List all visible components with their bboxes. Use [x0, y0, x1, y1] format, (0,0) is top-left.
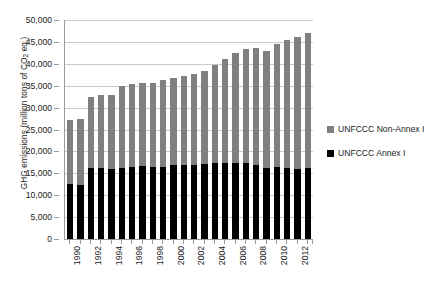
- bar-segment-annex-i: [88, 168, 94, 239]
- bar-group: [129, 84, 135, 239]
- bar-segment-non-annex-i: [88, 97, 94, 168]
- legend-entry: UNFCCC Annex I: [327, 148, 439, 158]
- bar-segment-non-annex-i: [139, 83, 145, 167]
- bar-group: [119, 86, 125, 239]
- bar-group: [88, 97, 94, 239]
- bar-group: [201, 71, 207, 239]
- bar-segment-annex-i: [129, 167, 135, 239]
- y-axis-tick-mark: [54, 239, 59, 240]
- x-axis-tick-mark: [131, 239, 132, 244]
- y-axis-tick-mark: [54, 20, 59, 21]
- x-axis-tick-mark: [100, 239, 101, 244]
- bar-group: [108, 95, 114, 239]
- x-axis-tick-mark: [80, 239, 81, 244]
- y-axis-tick-label: 35,000: [26, 81, 52, 90]
- bar-group: [232, 53, 238, 239]
- y-axis-tick-mark: [54, 151, 59, 152]
- bar-segment-non-annex-i: [170, 78, 176, 166]
- chart-legend: UNFCCC Non-Annex IUNFCCC Annex I: [327, 124, 439, 172]
- bar-segment-non-annex-i: [181, 76, 187, 165]
- bar-segment-annex-i: [222, 163, 228, 239]
- bar-segment-non-annex-i: [77, 119, 83, 185]
- y-axis-tick-mark: [54, 108, 59, 109]
- bar-segment-non-annex-i: [108, 95, 114, 169]
- bar-segment-annex-i: [201, 164, 207, 239]
- bar-group: [263, 51, 269, 239]
- bar-group: [294, 37, 300, 239]
- bar-segment-annex-i: [98, 168, 104, 239]
- bar-group: [160, 80, 166, 239]
- bar-segment-annex-i: [108, 169, 114, 239]
- y-axis-tick-mark: [54, 86, 59, 87]
- x-axis-tick-label: 2000: [177, 246, 186, 265]
- x-axis-tick-mark: [183, 239, 184, 244]
- bar-group: [98, 95, 104, 239]
- bar-segment-annex-i: [274, 167, 280, 239]
- bar-segment-annex-i: [77, 185, 83, 239]
- bar-group: [284, 40, 290, 239]
- bar-segment-annex-i: [181, 165, 187, 239]
- bar-segment-non-annex-i: [191, 74, 197, 165]
- bar-segment-non-annex-i: [160, 80, 166, 166]
- x-axis-tick-mark: [307, 239, 308, 244]
- bar-segment-annex-i: [263, 168, 269, 239]
- bar-segment-non-annex-i: [222, 59, 228, 162]
- y-axis-tick-label: 25,000: [26, 125, 52, 134]
- x-axis-tick-label: 2012: [301, 246, 310, 265]
- legend-label: UNFCCC Annex I: [338, 148, 405, 158]
- bar-group: [222, 59, 228, 239]
- y-axis-tick-label: 45,000: [26, 38, 52, 47]
- x-axis-tick-label: 2002: [197, 246, 206, 265]
- bar-group: [305, 33, 311, 239]
- x-axis-tick-mark: [235, 239, 236, 244]
- x-axis-tick-mark: [312, 239, 313, 244]
- x-axis-tick-label: 1998: [156, 246, 165, 265]
- bar-segment-annex-i: [253, 165, 259, 239]
- y-axis-tick-mark: [54, 195, 59, 196]
- bar-group: [170, 78, 176, 239]
- bar-segment-non-annex-i: [98, 95, 104, 168]
- x-axis-tick-mark: [266, 239, 267, 244]
- x-axis-tick-label: 1996: [135, 246, 144, 265]
- y-axis-tick-mark: [54, 173, 59, 174]
- legend-label: UNFCCC Non-Annex I: [338, 124, 424, 134]
- legend-swatch-non-annex-i: [327, 126, 334, 133]
- x-axis-tick-mark: [69, 239, 70, 244]
- bar-segment-annex-i: [150, 167, 156, 239]
- y-axis-tick-label: 30,000: [26, 103, 52, 112]
- x-axis-tick-mark: [173, 239, 174, 244]
- bar-segment-non-annex-i: [150, 83, 156, 167]
- bar-segment-non-annex-i: [129, 84, 135, 166]
- legend-entry: UNFCCC Non-Annex I: [327, 124, 439, 134]
- bar-segment-annex-i: [243, 163, 249, 239]
- bar-segment-annex-i: [119, 168, 125, 239]
- bar-segment-annex-i: [67, 184, 73, 239]
- x-axis-tick-mark: [193, 239, 194, 244]
- ghg-emissions-stacked-bar-chart: GHG emissions (million tons of CO2 eq.) …: [0, 0, 441, 295]
- x-axis-tick-mark: [152, 239, 153, 244]
- y-axis-tick-labels: 05,00010,00015,00020,00025,00030,00035,0…: [0, 20, 59, 239]
- x-axis-tick-label: 2010: [280, 246, 289, 265]
- bar-group: [191, 74, 197, 239]
- x-axis-tick-mark: [204, 239, 205, 244]
- x-axis-tick-mark: [297, 239, 298, 244]
- y-axis-tick-label: 5,000: [30, 213, 52, 222]
- bar-segment-annex-i: [212, 163, 218, 239]
- x-axis-tick-marks: [64, 239, 312, 245]
- y-axis-tick-label: 0: [47, 235, 52, 244]
- bar-segment-annex-i: [191, 165, 197, 239]
- y-axis-tick-mark: [54, 217, 59, 218]
- y-axis-tick-mark: [54, 42, 59, 43]
- bar-segment-annex-i: [232, 163, 238, 239]
- x-axis-tick-mark: [286, 239, 287, 244]
- x-axis-tick-label: 1994: [115, 246, 124, 265]
- bar-group: [181, 76, 187, 239]
- x-axis-tick-mark: [214, 239, 215, 244]
- bar-segment-annex-i: [294, 169, 300, 239]
- x-axis-tick-mark: [142, 239, 143, 244]
- x-axis-tick-label: 2006: [239, 246, 248, 265]
- bar-group: [212, 65, 218, 239]
- x-axis-tick-label: 2008: [259, 246, 268, 265]
- x-axis-tick-labels: 1990199219941996199820002002200420062008…: [64, 246, 312, 292]
- y-axis-tick-label: 20,000: [26, 147, 52, 156]
